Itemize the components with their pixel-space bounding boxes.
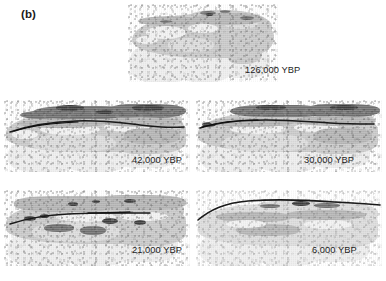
vegetation-zone-light xyxy=(136,36,158,44)
vegetation-zone-light xyxy=(188,24,218,33)
vegetation-zone-dark xyxy=(240,16,254,20)
time-label-126000: 126,000 YBP xyxy=(245,66,300,75)
vegetation-zone-darkest xyxy=(206,13,213,16)
time-label-21000: 21,000 YBP xyxy=(132,246,182,255)
time-label-42000: 42,000 YBP xyxy=(132,156,182,165)
panel-letter: (b) xyxy=(21,9,36,21)
vegetation-zone-dark xyxy=(220,10,230,13)
time-label-6000: 6,000 YBP xyxy=(312,246,357,255)
figure-panel-b: (b) xyxy=(0,0,386,281)
map-panel-30000 xyxy=(196,100,382,172)
vegetation-zone-dark xyxy=(160,20,172,23)
migration-route-line xyxy=(196,100,382,172)
map-canvas-30000 xyxy=(196,100,382,172)
time-label-30000: 30,000 YBP xyxy=(304,156,354,165)
eurasia-landmass xyxy=(228,44,262,64)
vegetation-zone-pale xyxy=(168,38,214,52)
